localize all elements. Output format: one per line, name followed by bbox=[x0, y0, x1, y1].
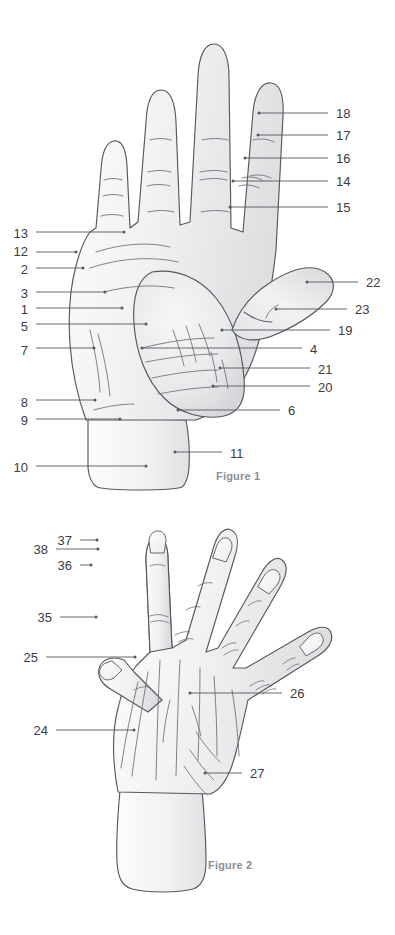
label-number-18[interactable]: 18 bbox=[336, 107, 350, 120]
label-number-35[interactable]: 35 bbox=[0, 611, 52, 624]
label-number-6[interactable]: 6 bbox=[288, 404, 295, 417]
label-number-8[interactable]: 8 bbox=[0, 396, 28, 409]
leader-dot-24 bbox=[133, 729, 136, 732]
leader-dot-27 bbox=[204, 772, 207, 775]
label-number-22[interactable]: 22 bbox=[366, 276, 380, 289]
label-number-16[interactable]: 16 bbox=[336, 152, 350, 165]
label-number-11[interactable]: 11 bbox=[230, 447, 244, 460]
label-number-17[interactable]: 17 bbox=[336, 129, 350, 142]
label-number-14[interactable]: 14 bbox=[336, 175, 350, 188]
label-number-21[interactable]: 21 bbox=[318, 363, 332, 376]
label-number-7[interactable]: 7 bbox=[0, 344, 28, 357]
diagram-sheet: 1312231578910181716141522231942120611373… bbox=[0, 0, 395, 935]
leader-dot-36 bbox=[90, 564, 93, 567]
label-number-13[interactable]: 13 bbox=[0, 227, 28, 240]
label-number-24[interactable]: 24 bbox=[0, 724, 48, 737]
label-number-2[interactable]: 2 bbox=[0, 263, 28, 276]
label-number-26[interactable]: 26 bbox=[290, 687, 304, 700]
label-number-10[interactable]: 10 bbox=[0, 461, 28, 474]
label-number-20[interactable]: 20 bbox=[318, 381, 332, 394]
label-number-12[interactable]: 12 bbox=[0, 245, 28, 258]
label-number-36[interactable]: 36 bbox=[0, 559, 72, 572]
leader-dot-38 bbox=[97, 548, 100, 551]
label-number-19[interactable]: 19 bbox=[338, 324, 352, 337]
label-number-3[interactable]: 3 bbox=[0, 287, 28, 300]
label-number-25[interactable]: 25 bbox=[0, 651, 38, 664]
leader-dot-26 bbox=[189, 692, 192, 695]
label-number-15[interactable]: 15 bbox=[336, 201, 350, 214]
leader-dot-37 bbox=[96, 539, 99, 542]
leader-dot-35 bbox=[95, 616, 98, 619]
figure-2-caption: Figure 2 bbox=[208, 859, 252, 871]
label-number-27[interactable]: 27 bbox=[250, 767, 264, 780]
label-number-5[interactable]: 5 bbox=[0, 320, 28, 333]
figure-1-caption: Figure 1 bbox=[216, 470, 260, 482]
label-number-38[interactable]: 38 bbox=[0, 543, 48, 556]
label-number-23[interactable]: 23 bbox=[355, 303, 369, 316]
label-number-1[interactable]: 1 bbox=[0, 303, 28, 316]
label-number-9[interactable]: 9 bbox=[0, 414, 28, 427]
leader-dot-25 bbox=[134, 656, 137, 659]
label-number-4[interactable]: 4 bbox=[310, 343, 317, 356]
